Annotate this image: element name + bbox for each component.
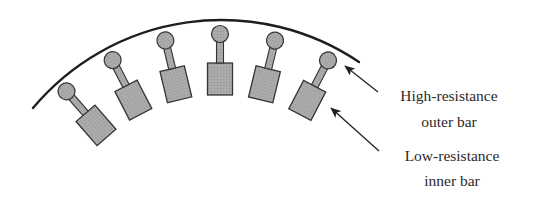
rotor-bar-1 <box>51 77 115 146</box>
outer-bar-arrow <box>345 66 378 92</box>
double-cage-rotor-diagram: High-resistance outer bar Low-resistance… <box>0 0 539 200</box>
rotor-bar-4 <box>208 26 233 96</box>
outer-bar-label-line1: High-resistance <box>400 87 497 104</box>
inner-bar-label-line1: Low-resistance <box>405 147 500 164</box>
inner-bar-arrow <box>331 108 379 151</box>
rotor-bar-3 <box>151 29 192 102</box>
rotor-bar-5 <box>249 29 290 102</box>
outer-bar-label-line2: outer bar <box>421 113 477 130</box>
rotor-bar-6 <box>289 47 343 120</box>
rotor-bars <box>51 26 343 146</box>
rotor-bar-2 <box>98 47 152 120</box>
inner-bar-label-line2: inner bar <box>424 172 480 189</box>
